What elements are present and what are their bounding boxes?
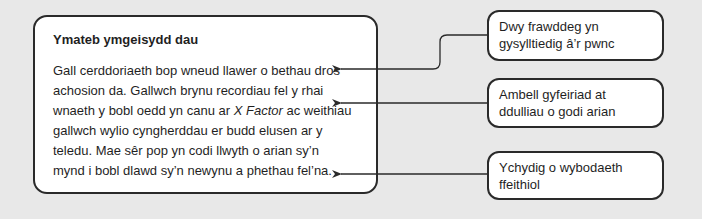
annotation-label-3: Ychydig o wybodaeth ffeithiol bbox=[499, 160, 623, 192]
annotation-label-2: Ambell gyfeiriad at ddulliau o godi aria… bbox=[499, 87, 615, 119]
annotation-box-2: Ambell gyfeiriad at ddulliau o godi aria… bbox=[487, 78, 664, 128]
annotation-label-1: Dwy frawddeg yn gysylltiedig â’r pwnc bbox=[499, 19, 615, 51]
candidate-response-box: Ymateb ymgeisydd dau Gall cerddoriaeth b… bbox=[33, 15, 378, 194]
annotation-box-1: Dwy frawddeg yn gysylltiedig â’r pwnc bbox=[487, 10, 664, 61]
response-body: Gall cerddoriaeth bop wneud llawer o bet… bbox=[53, 61, 353, 181]
annotation-box-3: Ychydig o wybodaeth ffeithiol bbox=[487, 151, 664, 200]
response-title: Ymateb ymgeisydd dau bbox=[53, 31, 358, 49]
response-body-italic: X Factor bbox=[234, 103, 283, 118]
